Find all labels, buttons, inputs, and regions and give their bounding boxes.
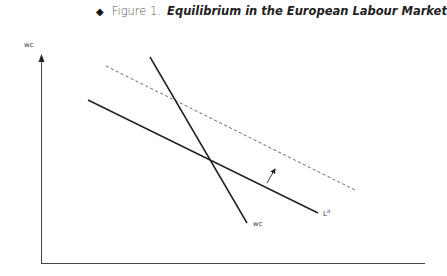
ld-line xyxy=(88,100,318,213)
wc-curve-label: wc xyxy=(253,220,263,228)
ld-curve-label: Ld xyxy=(323,208,330,218)
y-axis-label: wc xyxy=(24,41,34,49)
wc-line xyxy=(150,57,247,223)
shift-arrow-icon xyxy=(267,169,275,183)
y-axis-arrow-icon xyxy=(39,54,45,62)
